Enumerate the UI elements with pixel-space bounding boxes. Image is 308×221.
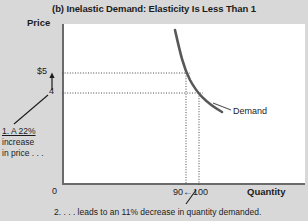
figure-inelastic-demand: (b) Inelastic Demand: Elasticity Is Less…	[0, 0, 308, 221]
x-tick-quantity-100: 100	[193, 187, 208, 197]
quantity-decrease-arrow-icon: ←	[183, 186, 193, 197]
y-tick-price-4: 4	[49, 86, 54, 96]
annotation-1-line-3: in price . . .	[2, 148, 44, 158]
y-tick-price-5: $5	[37, 66, 47, 76]
y-axis-label: Price	[27, 17, 50, 28]
annotation-1-line-1: 1. A 22%	[2, 126, 36, 136]
x-axis-label: Quantity	[247, 186, 286, 197]
x-tick-quantity-group: 90←100	[173, 186, 208, 197]
annotation-quantity-decrease: 2. . . . leads to an 11% decrease in qua…	[54, 207, 308, 218]
annotation-1-line-2: increase	[2, 137, 34, 147]
figure-title: (b) Inelastic Demand: Elasticity Is Less…	[0, 3, 308, 14]
plot-area	[62, 24, 305, 185]
annotation-price-increase: 1. A 22% increase in price . . .	[2, 126, 60, 159]
annotation-1-leader	[14, 95, 48, 124]
origin-label: 0	[52, 186, 57, 196]
demand-curve-label: Demand	[233, 106, 267, 116]
price-increase-arrow-head-icon	[49, 73, 54, 79]
x-tick-quantity-90: 90	[173, 187, 183, 197]
